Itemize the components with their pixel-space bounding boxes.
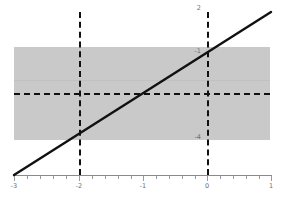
x-tick-minor	[105, 176, 106, 179]
x-tick-minor	[66, 176, 67, 179]
x-tick-minor	[53, 176, 54, 179]
x-tick-label-1: 1	[261, 182, 281, 190]
x-tick-minor	[40, 176, 41, 179]
y-tick-label-top: 2	[185, 4, 201, 12]
hline-y-minus-1	[14, 93, 270, 95]
x-tick-major	[271, 176, 272, 181]
x-tick-minor	[118, 176, 119, 179]
y-tick-label-low: -4	[185, 133, 201, 141]
x-tick-major	[79, 176, 80, 181]
x-tick-label-minus-2: -2	[69, 182, 89, 190]
faint-gridline	[14, 80, 270, 81]
x-tick-minor	[131, 176, 132, 179]
chart-canvas: -3 -2 -1 0 1 2 -1 -4	[0, 0, 287, 197]
x-tick-minor	[220, 176, 221, 179]
x-tick-major	[143, 176, 144, 181]
x-tick-major	[207, 176, 208, 181]
x-tick-minor	[169, 176, 170, 179]
x-tick-minor	[27, 176, 28, 179]
y-tick-label-mid: -1	[185, 47, 201, 55]
x-tick-major	[14, 176, 15, 181]
x-tick-label-minus-1: -1	[133, 182, 153, 190]
x-tick-minor	[195, 176, 196, 179]
x-tick-minor	[259, 176, 260, 179]
x-tick-minor	[156, 176, 157, 179]
x-tick-label-0: 0	[197, 182, 217, 190]
x-tick-minor	[233, 176, 234, 179]
x-tick-minor	[92, 176, 93, 179]
x-tick-minor	[182, 176, 183, 179]
x-tick-minor	[246, 176, 247, 179]
x-tick-label-minus-3: -3	[4, 182, 24, 190]
